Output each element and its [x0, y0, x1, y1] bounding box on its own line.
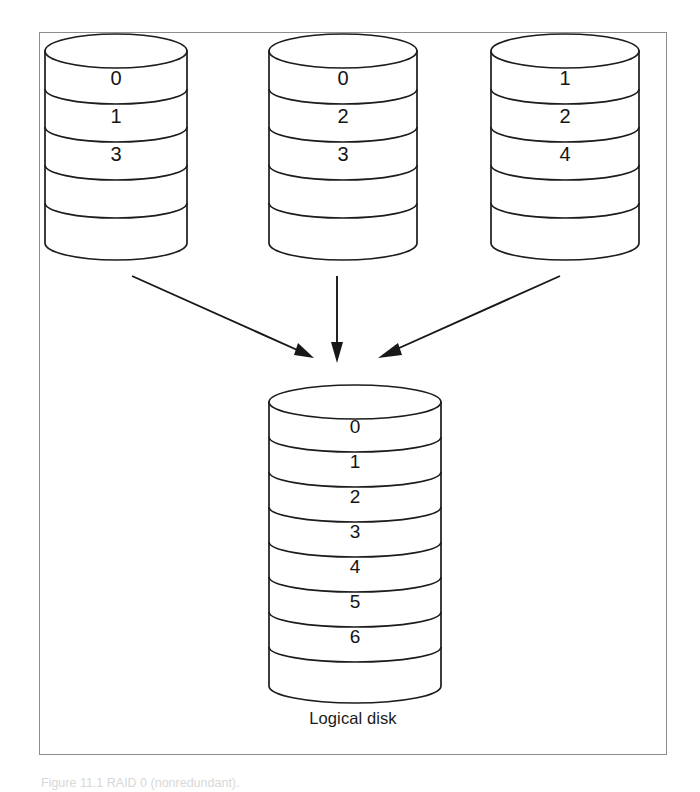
physical-disk-1: 0 1 3: [45, 34, 187, 260]
physical-disk-3: 1 2 4: [491, 34, 639, 260]
figure-caption: Figure 11.1 RAID 0 (nonredundant).: [41, 775, 541, 792]
physical-disk-3-segment-2: 4: [559, 143, 570, 165]
figure-frame: Physical disks 0 1 3: [39, 32, 667, 755]
physical-disk-2-segment-0: 0: [337, 67, 348, 89]
logical-disk-segment-1: 1: [350, 451, 361, 472]
physical-disk-1-segment-0: 0: [110, 67, 121, 89]
arrow-disk1-to-logical: [132, 276, 314, 358]
physical-disk-1-segment-1: 1: [110, 105, 121, 127]
logical-disk-segment-2: 2: [350, 486, 361, 507]
diagram-canvas: 0 1 3 0 2 3: [40, 33, 668, 756]
physical-disk-2-segment-1: 2: [337, 105, 348, 127]
physical-disk-2: 0 2 3: [269, 34, 417, 260]
physical-disk-1-segment-2: 3: [110, 143, 121, 165]
physical-disk-3-segment-1: 2: [559, 105, 570, 127]
physical-disk-2-segment-2: 3: [337, 143, 348, 165]
arrow-disk2-to-logical: [331, 276, 343, 363]
logical-disk-segment-5: 5: [350, 591, 361, 612]
figure-root: Physical disks 0 1 3: [0, 0, 700, 792]
logical-disk-label: Logical disk: [40, 709, 666, 728]
logical-disk-segment-0: 0: [350, 416, 361, 437]
arrow-disk3-to-logical: [378, 276, 560, 358]
logical-disk-segment-6: 6: [350, 626, 361, 647]
logical-disk-segment-3: 3: [350, 521, 361, 542]
logical-disk-segment-4: 4: [350, 556, 361, 577]
physical-disk-3-segment-0: 1: [559, 67, 570, 89]
logical-disk: 0 1 2 3 4 5 6: [269, 385, 441, 703]
